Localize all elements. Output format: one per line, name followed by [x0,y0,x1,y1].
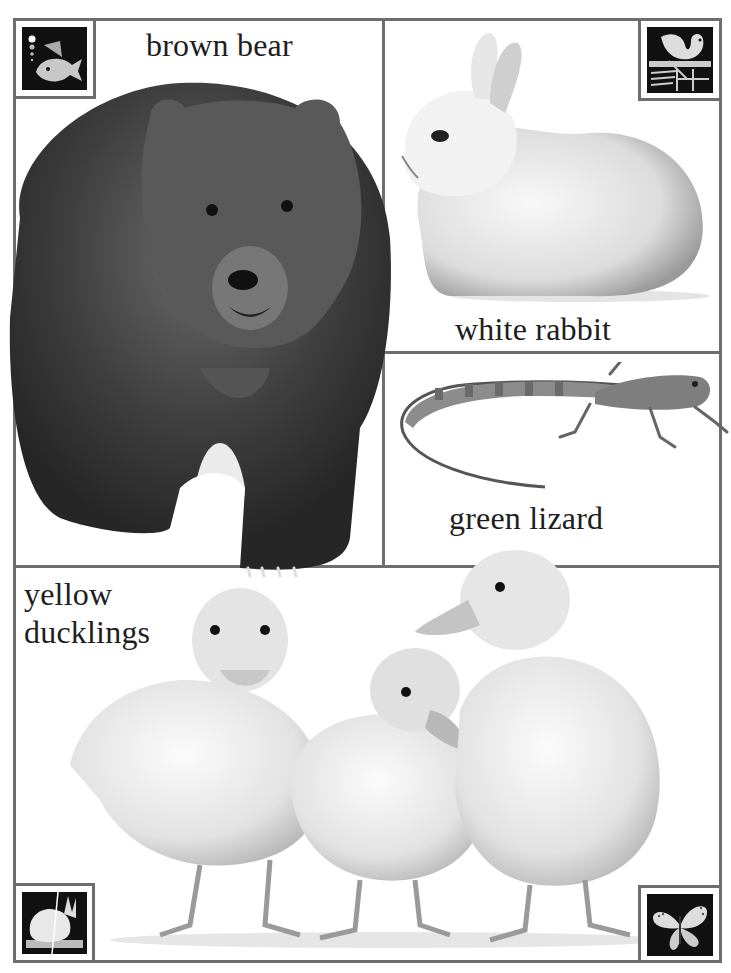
rabbit-icon [22,892,87,954]
rabbit-icon-frame [13,883,95,963]
bear-image [0,68,395,578]
divider-rabbit-lizard [382,351,722,354]
butterfly-icon-frame [638,885,722,963]
label-brown-bear: brown bear [146,29,293,61]
butterfly-icon [647,894,713,956]
fish-icon-frame [13,18,96,99]
swan-icon-frame [638,18,722,101]
frame-bottom [13,960,722,963]
ducklings-image [60,540,690,950]
swan-icon [647,27,713,93]
label-green-lizard: green lizard [449,502,603,534]
frame-top [13,18,722,21]
lizard-image [395,362,730,492]
label-white-rabbit: white rabbit [455,313,611,345]
fish-icon [22,27,87,90]
